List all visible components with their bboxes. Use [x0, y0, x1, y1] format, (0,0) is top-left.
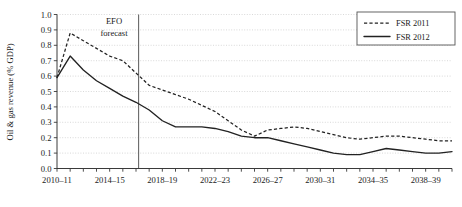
oil-gas-revenue-line-chart: 0.00.10.20.30.40.50.60.70.80.91.0 2010–1… [0, 0, 462, 207]
x-tick-label: 2014–15 [95, 175, 125, 185]
y-tick-label: 0.3 [41, 117, 52, 127]
x-tick-label: 2018–19 [147, 175, 177, 185]
x-tick-label: 2030–31 [305, 175, 335, 185]
y-tick-label: 0.1 [41, 148, 52, 158]
x-axis-group: 2010–112014–152018–192022–232026–272030–… [42, 169, 452, 186]
y-tick-label: 0.0 [41, 164, 52, 174]
x-tick-label: 2026–27 [253, 175, 284, 185]
y-tick-label: 0.6 [41, 71, 52, 81]
x-tick-label: 2010–11 [42, 175, 72, 185]
data-series-group [57, 33, 452, 155]
efo-annotation-line1: EFO [106, 16, 122, 26]
y-tick-label: 0.5 [41, 87, 52, 97]
series-line-fsr-2011 [57, 33, 452, 141]
y-tick-label: 1.0 [41, 10, 52, 20]
chart-legend: FSR 2011FSR 2012 [357, 12, 455, 45]
y-axis-title: Oil & gas revenue (% GDP) [5, 43, 15, 140]
x-tick-label: 2022–23 [200, 175, 230, 185]
legend-label-fsr-2011: FSR 2011 [396, 19, 429, 28]
efo-annotation-line2: forecast [100, 28, 128, 38]
chart-container: 0.00.10.20.30.40.50.60.70.80.91.0 2010–1… [0, 0, 462, 207]
y-tick-label: 0.9 [41, 25, 52, 35]
legend-label-fsr-2012: FSR 2012 [396, 33, 430, 42]
annotations-group: EFOforecast [100, 16, 128, 38]
y-axis-group: 0.00.10.20.30.40.50.60.70.80.91.0 [41, 10, 57, 174]
y-tick-label: 0.8 [41, 40, 52, 50]
y-tick-label: 0.4 [41, 102, 52, 112]
series-line-fsr-2012 [57, 56, 452, 155]
x-tick-label: 2034–35 [358, 175, 388, 185]
y-tick-label: 0.7 [41, 56, 52, 66]
y-tick-label: 0.2 [41, 133, 52, 143]
x-tick-label: 2038–39 [411, 175, 441, 185]
